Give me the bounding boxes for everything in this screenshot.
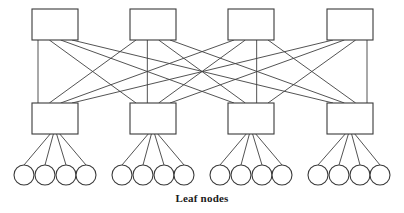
leaf-switch-2 <box>130 103 176 134</box>
leaf-nodes-caption: Leaf nodes <box>175 192 229 204</box>
leaf-2-to-node-8-link <box>158 134 184 165</box>
leaf-node-13 <box>308 165 328 185</box>
topology-canvas: Leaf nodes <box>0 0 404 213</box>
leaf-node-3 <box>56 165 76 185</box>
spine-switch-2 <box>130 9 176 40</box>
leaf-4-to-node-13-link <box>318 134 345 165</box>
leaf-node-group <box>14 165 390 185</box>
network-topology-diagram: Leaf nodes <box>0 0 404 213</box>
leaf-2-to-node-7-link <box>155 134 164 165</box>
leaf-3-to-node-12-link <box>256 134 282 165</box>
leaf-switch-3 <box>228 103 274 134</box>
leaf-node-1 <box>14 165 34 185</box>
spine-switch-4 <box>327 9 373 40</box>
spine-switch-group <box>32 9 373 40</box>
leaf-node-6 <box>133 165 153 185</box>
leaf-node-9 <box>210 165 230 185</box>
spine-switch-3 <box>228 9 274 40</box>
leaf-3-to-node-11-link <box>253 134 262 165</box>
leaf-node-4 <box>76 165 96 185</box>
leaf-to-node-link-group <box>24 134 380 165</box>
leaf-switch-4 <box>327 103 373 134</box>
leaf-node-5 <box>112 165 132 185</box>
spine-to-leaf-link-group <box>38 40 367 103</box>
leaf-node-15 <box>350 165 370 185</box>
leaf-node-16 <box>370 165 390 185</box>
leaf-node-14 <box>329 165 349 185</box>
leaf-1-to-node-3-link <box>57 134 66 165</box>
leaf-node-11 <box>252 165 272 185</box>
spine-switch-1 <box>32 9 78 40</box>
leaf-node-7 <box>154 165 174 185</box>
leaf-node-12 <box>272 165 292 185</box>
leaf-switch-group <box>32 103 373 134</box>
leaf-node-8 <box>174 165 194 185</box>
leaf-node-2 <box>35 165 55 185</box>
leaf-1-to-node-4-link <box>60 134 86 165</box>
leaf-node-10 <box>231 165 251 185</box>
leaf-switch-1 <box>32 103 78 134</box>
leaf-4-to-node-14-link <box>339 134 348 165</box>
